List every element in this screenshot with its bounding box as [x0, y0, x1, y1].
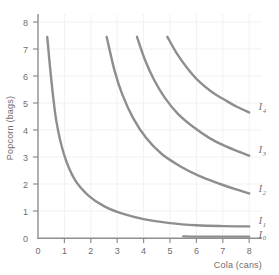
- y-tick-label: 6: [23, 72, 28, 82]
- x-tick-label: 6: [194, 246, 199, 256]
- vertical-gridlines: [64, 14, 249, 238]
- indifference-curve-i3: [137, 37, 249, 156]
- y-tick-label: 8: [23, 18, 28, 28]
- y-tick-label: 7: [23, 45, 28, 55]
- indifference-curve-i4: [167, 37, 249, 113]
- y-tick-labels: 0 1 2 3 4 5 6 7 8: [23, 18, 28, 244]
- curve-label-i0: I0: [258, 229, 267, 242]
- y-tick-label: 4: [23, 126, 28, 136]
- x-tick-label: 0: [35, 246, 40, 256]
- horizontal-gridlines: [38, 22, 262, 211]
- chart-canvas: 0 1 2 3 4 5 6 7 8 0 1 2 3 4 5 6 7 8 Popc…: [0, 0, 279, 275]
- x-tick-label: 2: [88, 246, 93, 256]
- y-tick-label: 0: [23, 234, 28, 244]
- x-tick-label: 1: [62, 246, 67, 256]
- x-axis-title: Cola (cans): [214, 260, 262, 270]
- y-tick-label: 2: [23, 180, 28, 190]
- y-axis-ticks: [33, 22, 38, 211]
- x-tick-label: 5: [167, 246, 172, 256]
- curve-label-i3: I3: [258, 144, 267, 157]
- y-tick-label: 5: [23, 99, 28, 109]
- x-tick-label: 3: [115, 246, 120, 256]
- y-axis-title: Popcorn (bags): [5, 96, 15, 160]
- curve-labels: I0I1I2I3I4: [258, 101, 267, 241]
- curve-label-i2: I2: [258, 183, 267, 196]
- x-tick-label: 8: [247, 246, 252, 256]
- x-tick-label: 4: [141, 246, 146, 256]
- y-tick-label: 3: [23, 153, 28, 163]
- indifference-curves: [47, 37, 249, 237]
- x-tick-label: 7: [220, 246, 225, 256]
- indifference-curve-chart: 0 1 2 3 4 5 6 7 8 0 1 2 3 4 5 6 7 8 Popc…: [0, 0, 279, 275]
- curve-label-i4: I4: [258, 101, 267, 114]
- curve-label-i1: I1: [258, 215, 266, 228]
- y-tick-label: 1: [23, 207, 28, 217]
- x-tick-labels: 0 1 2 3 4 5 6 7 8: [35, 246, 251, 256]
